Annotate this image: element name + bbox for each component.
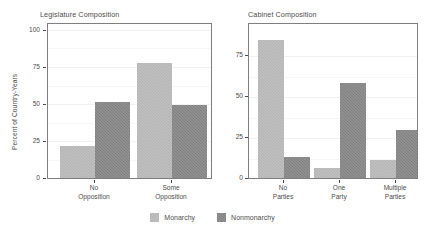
x-tick-mark-right-2 [339,180,340,183]
y-tick-label-right-0: 0 [225,174,243,181]
y-tick-mark-left-0 [43,178,46,179]
figure-bar-chart-panels: Legislature Composition Percent of Count… [0,0,425,236]
x-axis-label-no-parties-line1: No [253,184,313,193]
x-axis-label-some-opposition-line1: Some [141,184,201,193]
bar-right-no-parties-nonmonarchy [284,157,310,178]
y-tick-label-right-75: 75 [225,51,243,58]
x-axis-label-no-opposition: No Opposition [64,184,124,201]
legend-item-nonmonarchy[interactable]: Nonmonarchy [217,213,275,222]
x-axis-label-some-opposition: Some Opposition [141,184,201,201]
y-tick-label-right-50: 50 [225,92,243,99]
plot-area-right [248,23,418,179]
gridline-left-87 [48,48,211,49]
y-tick-label-left-75: 75 [22,63,40,70]
chart-legend: Monarchy Nonmonarchy [0,209,425,225]
gridline-left-62 [48,86,211,87]
y-tick-mark-left-50 [43,104,46,105]
panel-legislature-composition: Legislature Composition Percent of Count… [0,0,215,205]
x-axis-label-no-opposition-line1: No [64,184,124,193]
x-axis-label-multiple-parties: Multiple Parties [365,184,425,201]
y-tick-label-left-0: 0 [22,174,40,181]
bar-right-no-parties-monarchy [258,40,284,178]
x-axis-label-one-party: One Party [309,184,369,201]
legend-label-nonmonarchy: Nonmonarchy [231,214,275,221]
y-tick-label-left-25: 25 [22,137,40,144]
x-axis-label-one-party-line1: One [309,184,369,193]
legend-swatch-monarchy-icon [150,213,159,222]
x-axis-label-multiple-parties-line1: Multiple [365,184,425,193]
panel-container: Legislature Composition Percent of Count… [0,0,425,205]
x-axis-label-one-party-line2: Party [309,193,369,202]
x-axis-label-multiple-parties-line2: Parties [365,193,425,202]
bar-left-no-opposition-nonmonarchy [95,102,130,178]
gridline-left-100 [48,30,211,31]
plot-area-left [47,23,212,179]
bar-left-some-opposition-monarchy [137,63,172,178]
bar-right-one-party-nonmonarchy [340,83,366,178]
y-tick-mark-left-75 [43,67,46,68]
legend-label-monarchy: Monarchy [164,214,195,221]
panel-left-y-axis-label: Percent of Country-Years [11,74,18,150]
x-axis-label-no-parties: No Parties [253,184,313,201]
y-tick-label-right-25: 25 [225,133,243,140]
legend-swatch-nonmonarchy-icon [217,213,226,222]
y-tick-label-left-100: 100 [22,26,40,33]
bar-right-multiple-parties-monarchy [370,160,396,178]
bar-right-one-party-monarchy [314,168,340,178]
legend-item-monarchy[interactable]: Monarchy [150,213,195,222]
bar-left-no-opposition-monarchy [60,146,95,178]
bar-left-some-opposition-nonmonarchy [172,105,207,178]
x-axis-label-no-opposition-line2: Opposition [64,193,124,202]
x-axis-label-some-opposition-line2: Opposition [141,193,201,202]
panel-right-title: Cabinet Composition [248,10,317,19]
bar-right-multiple-parties-nonmonarchy [396,130,418,178]
y-tick-mark-left-25 [43,141,46,142]
x-tick-mark-left-1 [94,180,95,183]
x-tick-mark-left-2 [171,180,172,183]
gridline-left-75 [48,67,211,68]
x-tick-mark-right-1 [283,180,284,183]
y-tick-mark-left-100 [43,30,46,31]
x-axis-label-no-parties-line2: Parties [253,193,313,202]
x-tick-mark-right-3 [395,180,396,183]
panel-left-title: Legislature Composition [40,10,119,19]
y-tick-label-left-50: 50 [22,100,40,107]
